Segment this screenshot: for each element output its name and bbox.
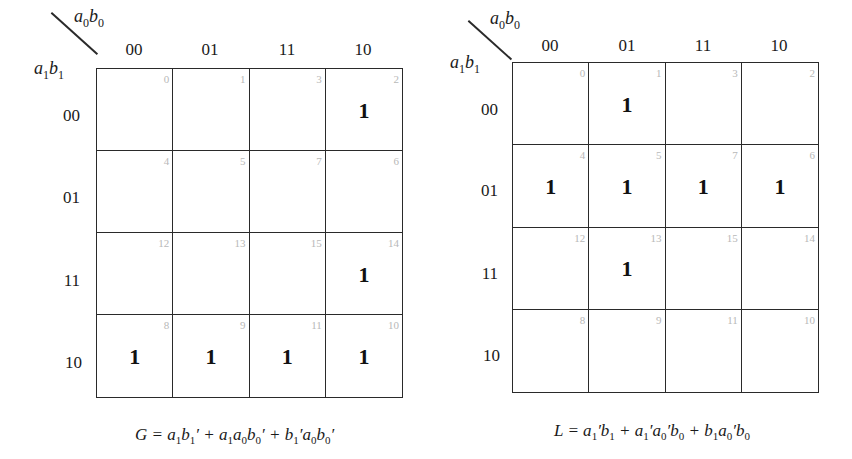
kmap-cell: 6 — [326, 151, 402, 233]
row-variable-label: a1b1 — [450, 52, 480, 77]
minterm-index: 3 — [316, 73, 322, 85]
minterm-index: 13 — [235, 237, 246, 249]
kmap-cell: 111 — [250, 315, 326, 397]
equation-l: L = a1′b1 + a1′a0′b0 + b1a0′b0 — [554, 421, 750, 442]
row-header: 01 — [40, 188, 80, 208]
kmap-cell: 3 — [250, 69, 326, 151]
col-header: 00 — [512, 36, 588, 56]
kmap-cell: 41 — [513, 145, 589, 227]
minterm-index: 5 — [656, 149, 662, 161]
row-header: 00 — [40, 106, 80, 126]
minterm-index: 9 — [240, 319, 246, 331]
cell-value: 1 — [326, 262, 402, 288]
kmap-cell: 141 — [326, 233, 402, 315]
row-variable-label: a1b1 — [34, 58, 64, 83]
row-header: 10 — [42, 353, 82, 373]
minterm-index: 14 — [388, 237, 399, 249]
kmap-cell: 11 — [666, 310, 742, 392]
minterm-index: 6 — [810, 149, 816, 161]
col-header: 01 — [589, 36, 665, 56]
kmap-cell: 91 — [173, 315, 249, 397]
col-header: 00 — [96, 40, 172, 60]
kmap-cell: 7 — [250, 151, 326, 233]
minterm-index: 10 — [388, 319, 399, 331]
col-variable-label: a0b0 — [74, 6, 104, 31]
kmap-cell: 0 — [513, 63, 589, 145]
kmap-cell: 51 — [589, 145, 665, 227]
kmap-cell: 12 — [513, 228, 589, 310]
minterm-index: 6 — [394, 155, 400, 167]
kmap-cell: 15 — [250, 233, 326, 315]
minterm-index: 2 — [394, 73, 400, 85]
col-header: 11 — [665, 36, 741, 56]
minterm-index: 8 — [580, 314, 586, 326]
row-header: 11 — [458, 264, 498, 284]
kmap-cell: 5 — [173, 151, 249, 233]
minterm-index: 10 — [804, 314, 815, 326]
minterm-index: 2 — [810, 67, 816, 79]
kmap-cell: 10 — [742, 310, 818, 392]
kmap-cell: 3 — [666, 63, 742, 145]
row-header: 00 — [458, 100, 498, 120]
minterm-index: 0 — [164, 73, 170, 85]
cell-value: 1 — [589, 92, 664, 118]
kmap-cell: 61 — [742, 145, 818, 227]
minterm-index: 0 — [580, 67, 586, 79]
cell-value: 1 — [742, 174, 818, 200]
cell-value: 1 — [326, 98, 402, 124]
minterm-index: 4 — [164, 155, 170, 167]
kmap-cell: 15 — [666, 228, 742, 310]
cell-value: 1 — [589, 174, 664, 200]
kmap-grid: 0 1 3 21 4 5 7 6 12 13 15 141 81 91 111 … — [96, 68, 403, 398]
kmap-cell: 14 — [742, 228, 818, 310]
cell-value: 1 — [97, 344, 172, 370]
cell-value: 1 — [250, 344, 325, 370]
minterm-index: 15 — [311, 237, 322, 249]
kmap-cell: 13 — [173, 233, 249, 315]
minterm-index: 14 — [804, 232, 815, 244]
kmap-cell: 71 — [666, 145, 742, 227]
equation-g: G = a1b1′ + a1a0b0′ + b1′a0b0′ — [135, 425, 334, 446]
cell-value: 1 — [173, 344, 248, 370]
kmap-grid: 0 11 3 2 41 51 71 61 12 131 15 14 8 9 11… — [512, 62, 819, 393]
kmap-cell: 0 — [97, 69, 173, 151]
minterm-index: 7 — [316, 155, 322, 167]
minterm-index: 11 — [727, 314, 738, 326]
minterm-index: 15 — [727, 232, 738, 244]
row-header: 11 — [40, 271, 80, 291]
col-header: 10 — [325, 40, 401, 60]
row-header: 01 — [458, 181, 498, 201]
cell-value: 1 — [513, 174, 588, 200]
kmap-cell: 81 — [97, 315, 173, 397]
col-variable-label: a0b0 — [490, 8, 520, 33]
minterm-index: 12 — [574, 232, 585, 244]
row-header: 10 — [460, 346, 500, 366]
kmap-cell: 101 — [326, 315, 402, 397]
minterm-index: 11 — [311, 319, 322, 331]
minterm-index: 8 — [164, 319, 170, 331]
cell-value: 1 — [326, 344, 402, 370]
kmap-cell: 21 — [326, 69, 402, 151]
kmap-cell: 1 — [173, 69, 249, 151]
minterm-index: 3 — [732, 67, 738, 79]
cell-value: 1 — [589, 256, 664, 282]
minterm-index: 7 — [732, 149, 738, 161]
kmap-cell: 4 — [97, 151, 173, 233]
kmap-cell: 11 — [589, 63, 665, 145]
cell-value: 1 — [666, 174, 741, 200]
col-header: 01 — [172, 40, 248, 60]
kmap-cell: 8 — [513, 310, 589, 392]
kmap-cell: 12 — [97, 233, 173, 315]
col-header: 10 — [741, 36, 817, 56]
minterm-index: 13 — [651, 232, 662, 244]
kmap-cell: 9 — [589, 310, 665, 392]
minterm-index: 1 — [656, 67, 662, 79]
kmap-cell: 131 — [589, 228, 665, 310]
col-header: 11 — [249, 40, 325, 60]
minterm-index: 5 — [240, 155, 246, 167]
kmap-cell: 2 — [742, 63, 818, 145]
minterm-index: 1 — [240, 73, 246, 85]
minterm-index: 12 — [158, 237, 169, 249]
minterm-index: 4 — [580, 149, 586, 161]
minterm-index: 9 — [656, 314, 662, 326]
